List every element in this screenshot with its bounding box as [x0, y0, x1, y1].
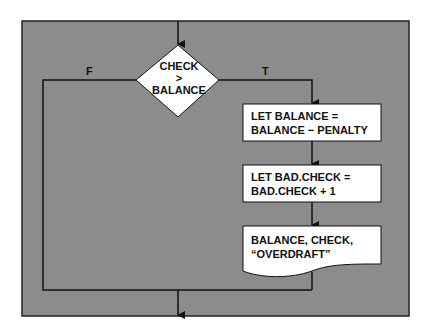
output-line-2: “OVERDRAFT” [251, 248, 330, 260]
output-line-1: BALANCE, CHECK, [251, 234, 353, 246]
process-2-line-1: LET BAD.CHECK = [251, 171, 350, 183]
decision-line-2: > [176, 72, 182, 84]
flowchart: CHECK > BALANCE F T LET BALANCE = BALANC… [0, 0, 426, 331]
process-1-line-2: BALANCE − PENALTY [251, 124, 368, 136]
decision-line-1: CHECK [159, 60, 198, 72]
process-1-line-1: LET BALANCE = [251, 110, 338, 122]
true-label: T [262, 65, 269, 77]
false-label: F [86, 65, 93, 77]
decision-line-3: BALANCE [152, 84, 206, 96]
process-2-line-2: BAD.CHECK + 1 [251, 185, 336, 197]
